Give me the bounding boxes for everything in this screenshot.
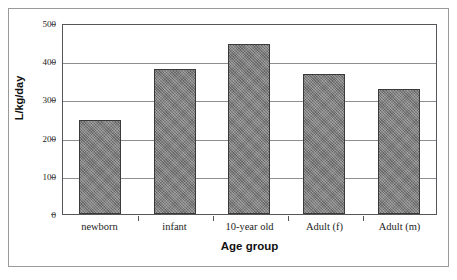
plot-area (62, 24, 437, 215)
bar-adult-f (303, 74, 345, 214)
y-tick-mark (51, 62, 56, 63)
bar-newborn (79, 120, 121, 215)
figure: L/kg/day 500 400 300 200 100 0 (0, 0, 457, 280)
bar-slot (361, 25, 436, 214)
y-tick-mark (51, 214, 56, 215)
x-tick-label: 10-year old (212, 221, 287, 232)
bar-slot (212, 25, 287, 214)
y-tick-label: 0 (26, 211, 56, 220)
y-axis-ticks: 500 400 300 200 100 0 (22, 24, 56, 215)
x-tick-label: Adult (f) (287, 221, 362, 232)
bar-infant (154, 69, 196, 214)
bar-slot (138, 25, 213, 214)
x-axis-ticks: newborn infant 10-year old Adult (f) Adu… (62, 221, 437, 232)
bar-10-year-old (228, 44, 270, 214)
y-tick-mark (51, 24, 56, 25)
x-tick-label: Adult (m) (362, 221, 437, 232)
bar-adult-m (378, 89, 420, 214)
y-tick-mark (51, 177, 56, 178)
bar-slot (63, 25, 138, 214)
bar-slot (287, 25, 362, 214)
bar-series (63, 25, 436, 214)
y-tick-mark (51, 139, 56, 140)
x-axis-title: Age group (62, 240, 437, 252)
x-tick-label: newborn (62, 221, 137, 232)
x-tick-label: infant (137, 221, 212, 232)
y-tick-mark (51, 100, 56, 101)
